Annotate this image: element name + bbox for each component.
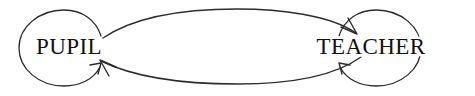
edge-teacher-to-pupil-arc bbox=[101, 57, 361, 84]
node-label-teacher: TEACHER bbox=[317, 34, 426, 59]
relationship-diagram: PUPIL TEACHER bbox=[0, 0, 475, 96]
node-label-pupil: PUPIL bbox=[36, 34, 102, 59]
pupil-self-loop-arrowhead bbox=[90, 63, 101, 74]
edge-teacher-to-pupil bbox=[100, 57, 361, 84]
diagram-canvas: PUPIL TEACHER bbox=[0, 0, 475, 96]
